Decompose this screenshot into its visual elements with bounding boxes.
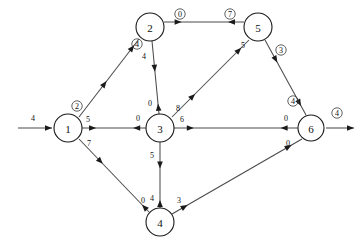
edge-3-4-label-4: 4: [150, 194, 154, 203]
edge-1-2-label-2: 2: [72, 101, 82, 111]
edge-3-4-arrowhead-1: [157, 200, 163, 207]
node-5-label: 5: [255, 22, 261, 34]
node-5[interactable]: 5: [244, 13, 272, 41]
edge-weight-label: 4: [150, 194, 154, 203]
edge-weight-label: 0: [284, 114, 288, 123]
edge-2-5-label-0: 0: [175, 9, 185, 19]
edge-1-4-line: [79, 139, 149, 212]
edge-weight-label: 0: [148, 99, 152, 108]
edge-weight-label: 3: [279, 46, 283, 55]
edge-weight-label: 4: [135, 40, 139, 49]
edge-3-6-label-6: 6: [180, 115, 184, 124]
node-1-label: 1: [65, 123, 71, 135]
edges-layer: [79, 19, 306, 214]
edge-2-5: [164, 19, 244, 25]
edge-labels-layer: 2450704007855460303444: [31, 9, 342, 205]
edge-1-4: [79, 139, 149, 212]
edge-3-4: [157, 142, 163, 208]
node-6[interactable]: 6: [298, 115, 324, 141]
edge-1-4-label-7: 7: [87, 139, 91, 148]
edge-weight-label: 0: [136, 114, 140, 123]
edge-3-6-label-0: 0: [284, 114, 288, 123]
edge-weight-label: 3: [177, 196, 181, 205]
edge-2-3-arrowhead-1: [156, 104, 162, 111]
edge-weight-label: 2: [75, 102, 79, 111]
node-6-label: 6: [308, 123, 314, 135]
edge-weight-label: 8: [176, 104, 180, 113]
edge-3-4-label-5: 5: [150, 151, 154, 160]
source-arrow-label-4: 4: [31, 114, 35, 123]
edge-3-6-arrowhead-0: [187, 125, 194, 131]
edge-1-3-label-0: 0: [136, 114, 140, 123]
edge-5-6: [265, 40, 306, 115]
edge-weight-label: 4: [142, 52, 146, 61]
edge-weight-label: 4: [31, 114, 35, 123]
edge-5-6-arrowhead-0: [271, 55, 277, 62]
edge-1-3: [82, 125, 146, 131]
edge-4-6-arrowhead-0: [180, 205, 187, 211]
node-3[interactable]: 3: [146, 114, 174, 142]
edge-3-6-arrowhead-1: [281, 125, 288, 131]
edge-2-3: [151, 41, 161, 114]
edge-4-6-label-0: 0: [286, 139, 290, 148]
edge-1-2: [79, 39, 139, 117]
edge-2-5-label-7: 7: [225, 9, 235, 19]
edge-2-3-label-4: 4: [142, 52, 146, 61]
edge-1-2-label-4: 4: [132, 39, 142, 49]
nodes-layer: 123456: [54, 13, 324, 236]
sink-arrow: [326, 125, 354, 131]
edge-1-2-arrowhead-1: [128, 45, 134, 52]
edge-5-6-label-3: 3: [276, 45, 286, 55]
edge-3-5-label-5: 5: [241, 41, 245, 50]
sink-arrow-label-4: 4: [332, 108, 342, 118]
edge-1-3-arrowhead-0: [89, 125, 96, 131]
edge-weight-label: 0: [178, 10, 182, 19]
edge-4-6-label-3: 3: [177, 196, 181, 205]
edge-weight-label: 0: [286, 139, 290, 148]
edge-3-4-arrowhead-0: [157, 161, 163, 168]
edge-2-3-line: [152, 41, 159, 114]
graph-canvas: 123456 2450704007855460303444: [0, 0, 359, 248]
edge-weight-label: 5: [241, 41, 245, 50]
edge-4-6-line: [172, 139, 302, 214]
edge-1-3-arrowhead-1: [133, 125, 140, 131]
sink-arrow-arrowhead: [347, 125, 354, 131]
node-1[interactable]: 1: [54, 114, 82, 142]
edge-2-3-label-0: 0: [148, 99, 152, 108]
edge-1-4-label-0: 0: [141, 196, 145, 205]
edge-1-3-label-5: 5: [86, 115, 90, 124]
edge-weight-label: 0: [141, 196, 145, 205]
edge-2-5-arrowhead-1: [228, 19, 235, 25]
edge-3-5-label-8: 8: [176, 104, 180, 113]
edge-weight-label: 5: [86, 115, 90, 124]
source-arrow-arrowhead: [45, 125, 52, 131]
source-arrow: [18, 125, 52, 131]
edge-3-5: [172, 40, 249, 117]
edge-weight-label: 4: [335, 109, 339, 118]
edge-weight-label: 5: [150, 151, 154, 160]
edge-weight-label: 7: [87, 139, 91, 148]
edge-weight-label: 6: [180, 115, 184, 124]
edge-2-5-arrowhead-0: [175, 19, 182, 25]
flow-network-diagram: 123456 2450704007855460303444: [0, 0, 359, 248]
edge-weight-label: 7: [228, 10, 232, 19]
edge-3-6: [174, 125, 298, 131]
node-4[interactable]: 4: [146, 208, 174, 236]
edge-1-2-arrowhead-0: [100, 81, 106, 88]
node-3-label: 3: [157, 123, 163, 135]
node-4-label: 4: [157, 217, 163, 229]
node-2[interactable]: 2: [136, 13, 164, 41]
edge-4-6: [172, 139, 302, 214]
node-2-label: 2: [147, 22, 153, 34]
edge-2-3-arrowhead-0: [151, 64, 157, 71]
edge-weight-label: 4: [291, 97, 295, 106]
